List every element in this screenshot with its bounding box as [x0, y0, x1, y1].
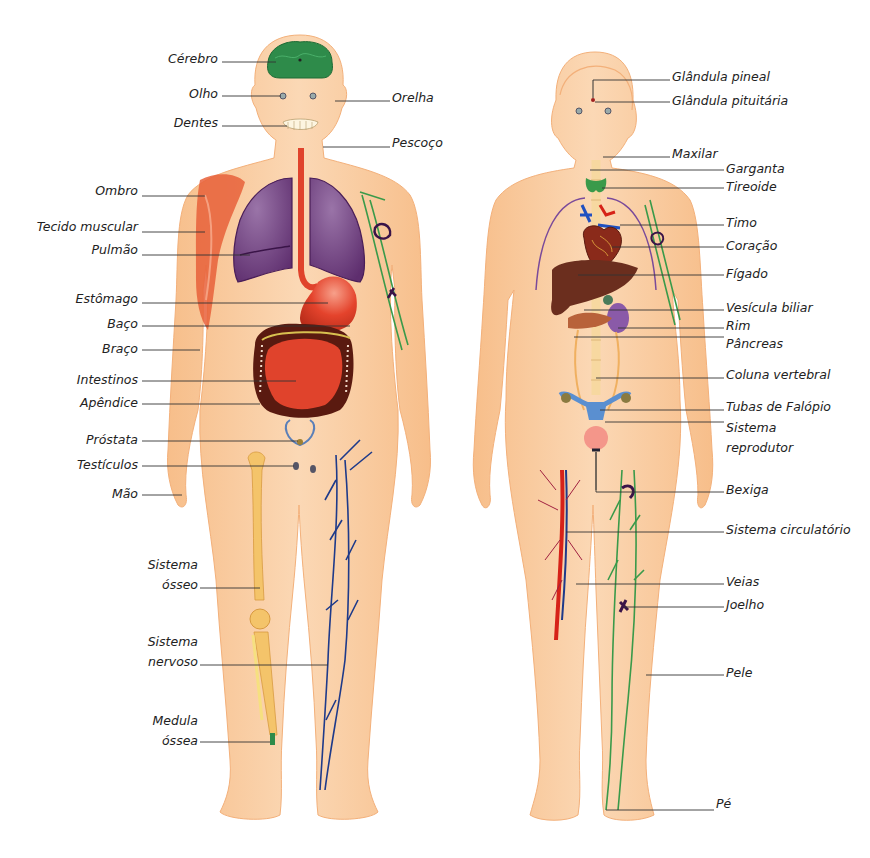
- label-testiculos: Testículos: [77, 457, 138, 472]
- small-intestine: [265, 339, 342, 409]
- male-eye-right: [310, 93, 316, 99]
- label-timo: Timo: [726, 215, 757, 230]
- label-glandula-pituitaria: Glândula pituitária: [672, 93, 788, 108]
- label-medula-ossea-2: óssea: [162, 733, 198, 748]
- label-orelha: Orelha: [392, 90, 434, 105]
- label-sistema-reprodutor-2: reprodutor: [726, 440, 793, 455]
- label-baco: Baço: [107, 316, 138, 331]
- label-sistema-reprodutor-1: Sistema: [726, 420, 776, 435]
- label-sistema-osseo-2: ósseo: [162, 577, 198, 592]
- label-intestinos: Intestinos: [77, 372, 138, 387]
- prostate: [297, 439, 303, 445]
- label-apendice: Apêndice: [80, 395, 138, 410]
- label-sistema-nervoso-1: Sistema: [148, 634, 198, 649]
- pituitary-gland: [591, 98, 595, 102]
- label-sistema-circulatorio: Sistema circulatório: [726, 522, 851, 537]
- label-coracao: Coração: [726, 238, 777, 253]
- label-pe: Pé: [716, 796, 731, 811]
- ovary-left: [561, 393, 571, 403]
- label-pele: Pele: [726, 665, 752, 680]
- label-vesicula-biliar: Vesícula biliar: [726, 300, 813, 315]
- label-tireoide: Tireoide: [726, 179, 777, 194]
- female-eye-left: [576, 108, 582, 114]
- bone-marrow: [270, 733, 275, 745]
- label-estomago: Estômago: [76, 291, 138, 306]
- testicle-right: [310, 465, 316, 473]
- label-glandula-pineal: Glândula pineal: [672, 69, 770, 84]
- gallbladder: [603, 295, 613, 305]
- bladder: [584, 426, 608, 450]
- label-figado: Fígado: [726, 266, 768, 281]
- label-sistema-osseo-1: Sistema: [148, 557, 198, 572]
- label-braco: Braço: [102, 341, 138, 356]
- label-cerebro: Cérebro: [168, 51, 218, 66]
- label-garganta: Garganta: [726, 161, 785, 176]
- kneecap: [250, 609, 270, 629]
- label-pulmao: Pulmão: [92, 242, 138, 257]
- label-coluna-vertebral: Coluna vertebral: [726, 367, 830, 382]
- label-pescoco: Pescoço: [392, 135, 443, 150]
- label-ombro: Ombro: [95, 183, 138, 198]
- label-medula-ossea-1: Medula: [153, 713, 198, 728]
- label-mao: Mão: [112, 486, 138, 501]
- label-rim: Rim: [726, 318, 750, 333]
- label-maxilar: Maxilar: [672, 146, 718, 161]
- female-eye-right: [605, 108, 611, 114]
- label-tecido-muscular: Tecido muscular: [37, 219, 138, 234]
- label-joelho: Joelho: [726, 597, 764, 612]
- human-anatomy-diagram: Cérebro Olho Dentes Ombro Tecido muscula…: [0, 0, 870, 858]
- label-veias: Veias: [726, 574, 759, 589]
- ovary-right: [621, 393, 631, 403]
- label-olho: Olho: [189, 86, 218, 101]
- label-sistema-nervoso-2: nervoso: [148, 654, 198, 669]
- label-tubas-de-falopio: Tubas de Falópio: [726, 399, 831, 414]
- female-figure: [473, 52, 712, 820]
- male-figure: [167, 35, 430, 819]
- label-dentes: Dentes: [174, 115, 218, 130]
- label-bexiga: Bexiga: [726, 482, 769, 497]
- label-prostata: Próstata: [86, 432, 138, 447]
- label-pancreas: Pâncreas: [726, 336, 783, 351]
